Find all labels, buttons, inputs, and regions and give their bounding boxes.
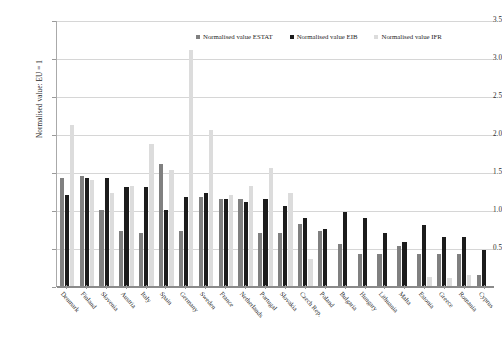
x-axis-cell: Finland (76, 289, 96, 337)
bar-group (97, 21, 117, 286)
bar-group (176, 21, 196, 286)
x-tick-mark (404, 285, 405, 289)
x-tick-mark (165, 285, 166, 289)
legend-label: Normalised value IFR (381, 33, 441, 40)
bar (462, 237, 466, 286)
x-tick-mark (444, 285, 445, 289)
bar-group (454, 21, 474, 286)
y-tick-mark (52, 173, 56, 174)
bar (105, 178, 109, 286)
y-tick-mark (52, 249, 56, 250)
bar (70, 125, 74, 286)
x-axis-cell: Greece (434, 289, 454, 337)
x-tick-label: France (219, 290, 236, 308)
plot-area (56, 21, 494, 287)
bar-group (295, 21, 315, 286)
x-tick-label: Italy (139, 290, 152, 304)
bar (189, 50, 193, 286)
bar-group (335, 21, 355, 286)
bar (258, 233, 262, 286)
bar (318, 231, 322, 286)
bar (164, 210, 168, 286)
legend-label: Normalised value ESTAT (203, 33, 273, 40)
x-axis-cell: Slovenia (96, 289, 116, 337)
bar-groups (57, 21, 494, 286)
x-axis-cell: Slovakia (275, 289, 295, 337)
bar (169, 170, 173, 286)
x-tick-label: Greece (438, 290, 456, 309)
bar (184, 197, 188, 286)
bar-group (196, 21, 216, 286)
x-axis-cell: Spain (156, 289, 176, 337)
legend-label: Normalised value EIB (297, 33, 358, 40)
y-tick-mark (52, 97, 56, 98)
bar (298, 224, 302, 286)
bar (467, 275, 471, 286)
x-axis-cell: Portugal (255, 289, 275, 337)
y-tick-label: 0.5 (476, 245, 502, 252)
bar-group (216, 21, 236, 286)
bar-group (355, 21, 375, 286)
x-axis-cell: Czech Rep. (295, 289, 315, 337)
bar (149, 144, 153, 286)
bar (238, 199, 242, 286)
bar-group (315, 21, 335, 286)
bar (303, 218, 307, 286)
bar (422, 225, 426, 286)
bar-group (77, 21, 97, 286)
x-axis-cell: Romania (454, 289, 474, 337)
x-tick-mark (325, 285, 326, 289)
bar (288, 193, 292, 286)
bar (377, 254, 381, 286)
bar (159, 164, 163, 286)
x-tick-label: Spain (159, 290, 174, 306)
bar-group (236, 21, 256, 286)
x-tick-mark (345, 285, 346, 289)
x-axis-cell: Netherlands (235, 289, 255, 337)
bar (139, 233, 143, 286)
bar (144, 187, 148, 286)
y-tick-label: 1.0 (476, 207, 502, 214)
x-tick-label: Poland (318, 290, 335, 308)
bar (110, 193, 114, 286)
x-axis-cell: France (215, 289, 235, 337)
x-axis-labels: DenmarkFinlandSloveniaAustriaItalySpainG… (56, 289, 494, 337)
x-tick-mark (86, 285, 87, 289)
bar (402, 242, 406, 286)
bar (269, 168, 273, 286)
x-tick-mark (265, 285, 266, 289)
x-tick-mark (66, 285, 67, 289)
bar (442, 237, 446, 286)
bar (323, 229, 327, 286)
bar (80, 176, 84, 286)
x-tick-mark (245, 285, 246, 289)
x-tick-mark (285, 285, 286, 289)
bar (179, 231, 183, 286)
x-axis-cell: Sweden (195, 289, 215, 337)
bar (363, 218, 367, 286)
x-tick-mark (305, 285, 306, 289)
y-tick-mark (52, 135, 56, 136)
x-axis-cell: Austria (116, 289, 136, 337)
bar (358, 254, 362, 286)
legend-swatch-icon (196, 35, 200, 39)
x-tick-mark (126, 285, 127, 289)
x-axis-cell: Poland (315, 289, 335, 337)
legend-swatch-icon (374, 35, 378, 39)
gridline (57, 287, 494, 288)
bar-group (136, 21, 156, 286)
chart-legend: Normalised value ESTATNormalised value E… (196, 33, 442, 40)
y-tick-mark (52, 211, 56, 212)
bar (477, 275, 481, 286)
bar (437, 254, 441, 286)
y-tick-label: 2.5 (476, 93, 502, 100)
legend-swatch-icon (290, 35, 294, 39)
legend-item: Normalised value ESTAT (196, 33, 273, 40)
bar-group (275, 21, 295, 286)
bar (283, 206, 287, 286)
x-axis-cell: Italy (136, 289, 156, 337)
x-tick-label: Malta (398, 290, 413, 306)
bar (263, 199, 267, 286)
bar (383, 233, 387, 286)
bar (130, 186, 134, 286)
